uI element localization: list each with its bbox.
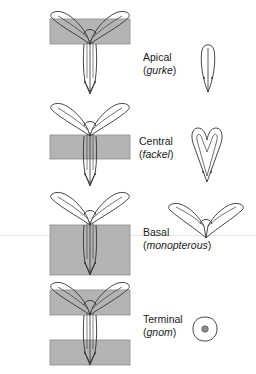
mutant-name: (fackel) bbox=[139, 148, 173, 161]
central-row bbox=[50, 103, 222, 186]
region-name: Terminal bbox=[143, 313, 183, 326]
mutant-name: (monopterous) bbox=[143, 239, 211, 252]
terminal-mutant-phenotype bbox=[193, 317, 217, 341]
mutant-name: (gnom) bbox=[143, 326, 183, 339]
apical-label: Apical (gurke) bbox=[143, 51, 176, 76]
central-label: Central (fackel) bbox=[139, 135, 173, 160]
central-mutant-phenotype bbox=[192, 128, 222, 182]
region-name: Apical bbox=[143, 51, 176, 64]
region-name: Basal bbox=[143, 226, 211, 239]
apical-row bbox=[50, 11, 215, 94]
region-name: Central bbox=[139, 135, 173, 148]
seedling-deletion-figure bbox=[0, 0, 256, 374]
terminal-row bbox=[50, 282, 217, 365]
apical-mutant-phenotype bbox=[201, 45, 215, 92]
mutant-name: (gurke) bbox=[143, 64, 176, 77]
basal-label: Basal (monopterous) bbox=[143, 226, 211, 251]
terminal-label: Terminal (gnom) bbox=[143, 313, 183, 338]
